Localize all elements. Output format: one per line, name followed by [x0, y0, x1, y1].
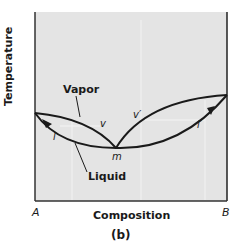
y-axis-label: Temperature	[2, 27, 15, 106]
x-left-label-A: A	[32, 207, 40, 218]
x-axis-label: Composition	[93, 210, 170, 221]
l-prime-label: l′	[197, 120, 202, 130]
x-right-label-B: B	[222, 207, 230, 218]
l-label: l	[53, 132, 56, 142]
liquid-label: Liquid	[88, 171, 126, 182]
phase-diagram-figure: Temperature Vapor Liquid v v′ l l′ m A B…	[0, 0, 242, 250]
v-label: v	[100, 119, 106, 129]
m-label: m	[112, 152, 122, 162]
v-prime-label: v′	[133, 110, 141, 120]
vapor-label: Vapor	[63, 84, 99, 95]
plot-area	[35, 12, 227, 201]
figure-caption: (b)	[111, 229, 131, 241]
